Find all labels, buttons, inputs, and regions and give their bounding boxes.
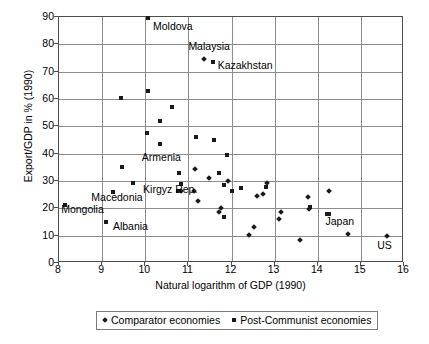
y-tick-label-60: 60 (32, 93, 54, 103)
y-tick-label-80: 80 (32, 38, 54, 48)
x-axis-tick-marks (58, 262, 403, 267)
y-tick-label-30: 30 (32, 175, 54, 185)
x-tick-mark-16 (403, 262, 404, 266)
plot-area: MoldovaMalaysiaKazakhstanArmeniaKirgyz R… (58, 16, 403, 262)
chart-legend: Comparator economiesPost-Communist econo… (96, 311, 378, 330)
data-point (212, 138, 216, 142)
x-tick-mark-12 (231, 262, 232, 266)
gridline-x-14 (318, 17, 319, 261)
annotation-moldova: Moldova (153, 21, 193, 32)
annotation-us: US (377, 240, 392, 251)
y-tick-label-90: 90 (32, 11, 54, 21)
data-point (158, 142, 162, 146)
data-point (217, 171, 221, 175)
annotation-kazakhstan: Kazakhstan (218, 60, 273, 71)
x-tick-mark-14 (317, 262, 318, 266)
data-point (222, 183, 226, 187)
data-point-kazakhstan (211, 60, 215, 64)
annotation-japan: Japan (326, 216, 355, 227)
data-point (192, 166, 198, 172)
data-point (225, 178, 231, 184)
data-point-kirgyz-rep (131, 181, 135, 185)
legend-label: Comparator economies (111, 314, 220, 326)
gridline-x-11 (188, 17, 189, 261)
y-tick-label-50: 50 (32, 120, 54, 130)
data-point-malaysia (201, 57, 207, 63)
gridline-y-20 (59, 208, 402, 209)
gridline-x-13 (275, 17, 276, 261)
y-tick-label-70: 70 (32, 66, 54, 76)
annotation-armenia: Armenia (142, 152, 181, 163)
legend-label: Post-Communist economies (240, 314, 371, 326)
gridline-y-50 (59, 126, 402, 127)
legend-item-post-communist-economies[interactable]: Post-Communist economies (232, 314, 371, 326)
x-tick-mark-9 (101, 262, 102, 266)
x-tick-mark-8 (58, 262, 59, 266)
data-point (261, 191, 267, 197)
gridline-x-12 (232, 17, 233, 261)
x-tick-mark-15 (360, 262, 361, 266)
data-point-moldova (146, 16, 150, 20)
annotation-albania: Albania (113, 221, 148, 232)
data-point-armenia (120, 165, 124, 169)
y-tick-label-40: 40 (32, 148, 54, 158)
gridline-y-80 (59, 44, 402, 45)
data-point (177, 171, 181, 175)
gridline-x-15 (361, 17, 362, 261)
annotation-kirgyz-rep: Kirgyz Rep. (143, 184, 197, 195)
data-point (297, 237, 303, 243)
data-point (230, 189, 234, 193)
y-tick-label-10: 10 (32, 230, 54, 240)
data-point (194, 135, 198, 139)
data-point (145, 131, 149, 135)
gridline-y-40 (59, 154, 402, 155)
data-point (254, 193, 260, 199)
y-tick-label-20: 20 (32, 202, 54, 212)
data-point (119, 96, 123, 100)
gridline-x-9 (102, 17, 103, 261)
legend-item-comparator-economies[interactable]: Comparator economies (103, 314, 220, 326)
data-point (252, 224, 258, 230)
x-tick-mark-13 (274, 262, 275, 266)
data-point (278, 209, 284, 215)
y-axis-tick-labels: 0102030405060708090 (30, 16, 54, 262)
data-point (264, 185, 268, 189)
data-point (305, 195, 311, 201)
annotation-macedonia: Macedonia (91, 192, 142, 203)
gridline-y-60 (59, 99, 402, 100)
x-axis-title: Natural logarithm of GDP (1990) (58, 279, 403, 291)
data-point (276, 216, 282, 222)
x-tick-mark-11 (187, 262, 188, 266)
data-point (222, 215, 226, 219)
square-marker-icon (232, 318, 236, 322)
data-point (146, 89, 150, 93)
data-point (195, 198, 201, 204)
data-point (170, 105, 174, 109)
data-point (239, 186, 243, 190)
data-point (308, 205, 312, 209)
scatter-chart-figure: Export/GDP in % (1990) Natural logarithm… (0, 0, 429, 344)
annotation-mongolia: Mongolia (61, 204, 104, 215)
gridline-y-10 (59, 236, 402, 237)
data-point (225, 153, 229, 157)
annotation-malaysia: Malaysia (188, 41, 229, 52)
data-point (158, 119, 162, 123)
data-point-albania (104, 220, 108, 224)
diamond-marker-icon (102, 317, 108, 323)
data-point (326, 189, 332, 195)
x-tick-mark-10 (144, 262, 145, 266)
gridline-y-70 (59, 72, 402, 73)
data-point (218, 205, 224, 211)
